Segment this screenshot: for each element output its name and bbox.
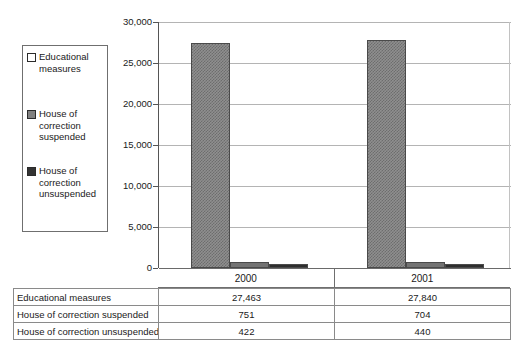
table-row-header: House of correction suspended bbox=[14, 306, 159, 323]
category-label-1: 2001 bbox=[334, 269, 511, 287]
legend-item-house-of-correction-suspended: House of correction suspended bbox=[27, 108, 109, 143]
y-axis-tick-label: 15,000 bbox=[108, 140, 152, 150]
table-cell-value: 27,840 bbox=[335, 289, 511, 306]
y-axis-tick-label: 25,000 bbox=[108, 58, 152, 68]
chart-legend: Educational measures House of correction… bbox=[22, 45, 108, 232]
bar bbox=[445, 264, 484, 268]
y-axis-tick-label: 10,000 bbox=[108, 181, 152, 191]
table-row: Educational measures27,46327,840 bbox=[14, 289, 511, 306]
legend-item-house-of-correction-unsuspended: House of correction unsuspended bbox=[27, 165, 109, 200]
bar bbox=[230, 262, 269, 268]
y-axis-tick-label: 30,000 bbox=[108, 17, 152, 27]
bar bbox=[406, 262, 445, 268]
bar-chart-figure: Educational measures House of correction… bbox=[0, 0, 525, 353]
plot-area bbox=[158, 22, 510, 268]
table-row-header: Educational measures bbox=[14, 289, 159, 306]
legend-swatch-icon-educational-measures bbox=[27, 53, 36, 62]
category-axis-row: 2000 2001 bbox=[158, 269, 510, 288]
bar bbox=[191, 43, 230, 268]
legend-label-educational-measures: Educational measures bbox=[39, 51, 89, 74]
legend-item-educational-measures: Educational measures bbox=[27, 51, 109, 74]
plot-right-edge bbox=[509, 22, 510, 268]
table-cell-value: 422 bbox=[159, 323, 335, 340]
legend-label-house-of-correction-suspended: House of correction suspended bbox=[39, 108, 85, 143]
gridline bbox=[159, 22, 511, 23]
table-row: House of correction unsuspended422440 bbox=[14, 323, 511, 340]
bar bbox=[269, 264, 308, 268]
legend-swatch-icon-house-of-correction-suspended bbox=[27, 110, 36, 119]
bar bbox=[367, 40, 406, 268]
table-row: House of correction suspended751704 bbox=[14, 306, 511, 323]
table-cell-value: 27,463 bbox=[159, 289, 335, 306]
category-label-0: 2000 bbox=[158, 269, 334, 287]
legend-swatch-icon-house-of-correction-unsuspended bbox=[27, 167, 36, 176]
table-row-header: House of correction unsuspended bbox=[14, 323, 159, 340]
table-cell-value: 751 bbox=[159, 306, 335, 323]
table-cell-value: 440 bbox=[335, 323, 511, 340]
table-cell-value: 704 bbox=[335, 306, 511, 323]
y-axis-tick-label: 5,000 bbox=[108, 222, 152, 232]
y-axis-tick-label: 0 bbox=[108, 263, 152, 273]
legend-label-house-of-correction-unsuspended: House of correction unsuspended bbox=[39, 165, 96, 200]
data-table: Educational measures27,46327,840House of… bbox=[13, 288, 511, 340]
y-axis-tick-label: 20,000 bbox=[108, 99, 152, 109]
